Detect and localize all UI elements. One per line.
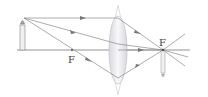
focal-label-right: F [159, 37, 166, 48]
ray-arrows [70, 16, 144, 68]
ray-diagram: F F [0, 0, 208, 97]
object-candle [20, 21, 25, 51]
focal-point-left [71, 49, 73, 51]
image-candle-inverted [161, 51, 165, 77]
focal-label-left: F [68, 54, 75, 65]
